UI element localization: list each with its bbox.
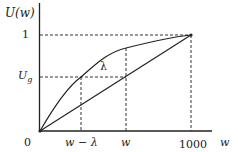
x-tick-1000: 1000 [179, 139, 207, 150]
x-tick-w: w [121, 137, 130, 148]
endpoint-dot [189, 33, 192, 36]
diagram-canvas [0, 0, 238, 152]
y-axis-label: U(w) [5, 7, 35, 19]
y-tick-1: 1 [22, 29, 29, 40]
x-tick-origin: 0 [24, 137, 31, 148]
x-tick-w-minus-lambda: w − λ [65, 137, 98, 148]
origin-dot [38, 129, 41, 132]
y-tick-ug: Ug [18, 70, 32, 84]
x-axis-label: w [220, 137, 229, 148]
utility-diagram: U(w) 1 Ug λ 0 w − λ w 1000 w [0, 0, 238, 152]
chord-line [40, 35, 191, 131]
lambda-label: λ [100, 61, 107, 72]
